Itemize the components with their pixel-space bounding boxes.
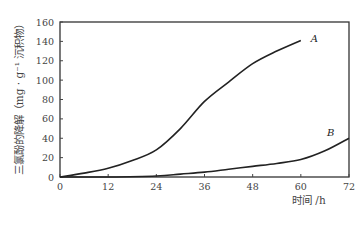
x-tick-label: 36 bbox=[198, 181, 210, 192]
plot-frame bbox=[60, 22, 349, 177]
x-tick-label: 12 bbox=[102, 181, 114, 192]
y-axis-label: 三氯酚的降解（mg · g⁻¹ 沉积物） bbox=[11, 7, 25, 187]
y-tick-label: 120 bbox=[36, 55, 54, 66]
y-tick-label: 40 bbox=[42, 133, 54, 144]
y-tick-label: 160 bbox=[36, 17, 54, 28]
x-tick-label: 48 bbox=[247, 181, 259, 192]
y-axis-ticks: 020406080100120140160 bbox=[36, 17, 63, 183]
data-curves bbox=[60, 40, 349, 177]
y-tick-label: 100 bbox=[36, 75, 54, 86]
x-tick-label: 0 bbox=[57, 181, 63, 192]
series-label-B: B bbox=[326, 127, 334, 138]
x-tick-label: 72 bbox=[343, 181, 355, 192]
x-axis-label: 时间 /h bbox=[292, 192, 326, 207]
series-label-A: A bbox=[310, 33, 318, 44]
curve-A bbox=[60, 40, 301, 177]
y-tick-label: 140 bbox=[36, 36, 54, 47]
curve-B bbox=[60, 138, 349, 177]
plot-border bbox=[60, 22, 349, 177]
x-tick-label: 60 bbox=[295, 181, 307, 192]
y-tick-label: 20 bbox=[42, 152, 54, 163]
x-tick-label: 24 bbox=[150, 181, 162, 192]
y-tick-label: 80 bbox=[42, 94, 54, 105]
series-labels: AB bbox=[310, 33, 335, 138]
y-tick-label: 60 bbox=[42, 113, 54, 124]
y-tick-label: 0 bbox=[48, 172, 54, 183]
